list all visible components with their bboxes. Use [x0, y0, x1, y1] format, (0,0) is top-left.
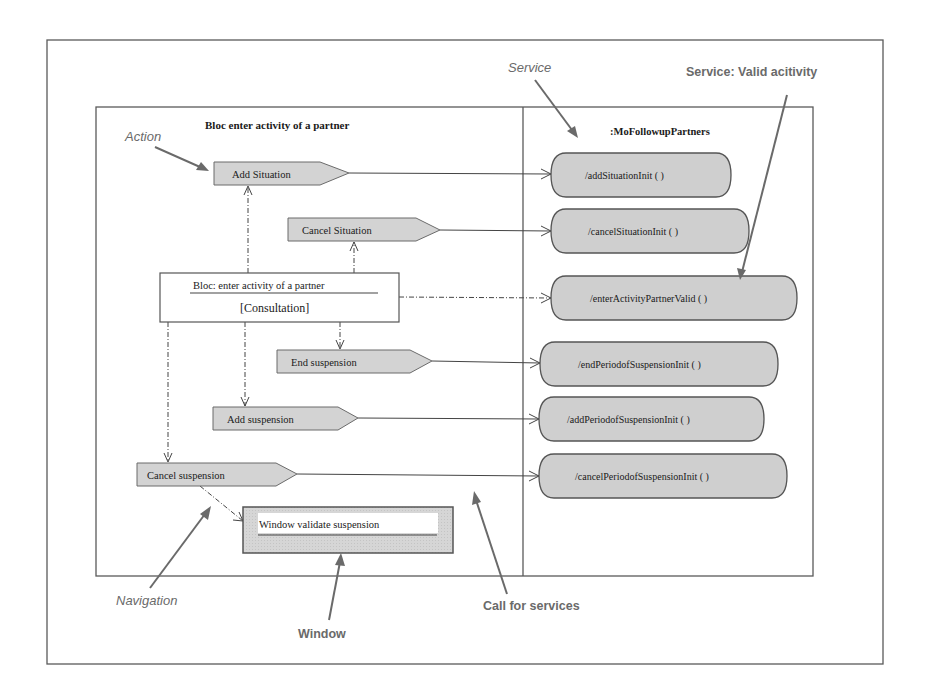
- right-panel-title: :MoFollowupPartners: [610, 126, 710, 137]
- call-lines: [297, 169, 551, 481]
- service-end-period-of-suspension-init[interactable]: /endPeriodofSuspensionInit ( ): [540, 342, 778, 386]
- service-enter-activity-partner-valid[interactable]: /enterActivityPartnerValid ( ): [551, 276, 797, 320]
- svg-text:End suspension: End suspension: [291, 357, 357, 368]
- annotation-action: Action: [124, 129, 209, 171]
- action-end-suspension[interactable]: End suspension: [277, 350, 432, 373]
- annotation-navigation: Navigation: [116, 506, 211, 608]
- service-add-period-of-suspension-init[interactable]: /addPeriodofSuspensionInit ( ): [539, 397, 764, 441]
- svg-text:Cancel Situation: Cancel Situation: [302, 225, 372, 236]
- svg-text:Action: Action: [124, 129, 161, 144]
- annotation-service: Service: [508, 60, 578, 138]
- svg-text:/endPeriodofSuspensionInit ( ): /endPeriodofSuspensionInit ( ): [578, 359, 701, 371]
- svg-text:/cancelSituationInit ( ): /cancelSituationInit ( ): [588, 226, 678, 238]
- svg-text:/enterActivityPartnerValid ( ): /enterActivityPartnerValid ( ): [590, 293, 707, 305]
- action-cancel-suspension[interactable]: Cancel suspension: [137, 463, 297, 486]
- bloc-consultation[interactable]: Bloc: enter activity of a partner [Consu…: [160, 273, 399, 322]
- svg-text:Service: Valid acitivity: Service: Valid acitivity: [686, 65, 817, 79]
- left-panel-title: Bloc enter activity of a partner: [205, 119, 349, 131]
- svg-text:/addPeriodofSuspensionInit ( ): /addPeriodofSuspensionInit ( ): [567, 414, 690, 426]
- svg-text:Window: Window: [298, 627, 346, 641]
- svg-text:Call for services: Call for services: [483, 599, 580, 613]
- bloc-title: Bloc: enter activity of a partner: [193, 280, 325, 291]
- svg-text:/cancelPeriodofSuspensionInit: /cancelPeriodofSuspensionInit ( ): [575, 471, 709, 483]
- svg-text:Navigation: Navigation: [116, 593, 177, 608]
- svg-text:Window validate suspension: Window validate suspension: [259, 519, 380, 530]
- activity-diagram: Bloc enter activity of a partner :MoFoll…: [0, 0, 928, 698]
- annotation-call-for-services: Call for services: [472, 491, 580, 613]
- action-add-situation[interactable]: Add Situation: [214, 162, 349, 185]
- service-cancel-situation-init[interactable]: /cancelSituationInit ( ): [551, 209, 749, 253]
- window-validate-suspension[interactable]: Window validate suspension: [243, 507, 453, 553]
- bloc-subtitle: [Consultation]: [240, 301, 309, 315]
- svg-text:Cancel suspension: Cancel suspension: [147, 470, 226, 481]
- service-cancel-period-of-suspension-init[interactable]: /cancelPeriodofSuspensionInit ( ): [539, 454, 787, 498]
- action-cancel-situation[interactable]: Cancel Situation: [288, 218, 440, 241]
- action-add-suspension[interactable]: Add suspension: [213, 407, 358, 430]
- annotation-window: Window: [298, 553, 346, 641]
- svg-text:Add Situation: Add Situation: [232, 169, 291, 180]
- svg-text:Add suspension: Add suspension: [227, 414, 295, 425]
- svg-text:/addSituationInit ( ): /addSituationInit ( ): [585, 170, 664, 182]
- svg-text:Service: Service: [508, 60, 551, 75]
- service-add-situation-init[interactable]: /addSituationInit ( ): [551, 153, 731, 197]
